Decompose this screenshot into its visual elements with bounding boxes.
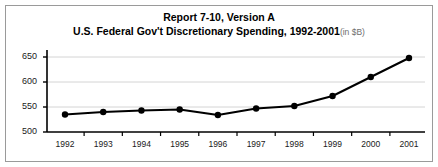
data-point-marker bbox=[329, 93, 335, 99]
data-point-marker bbox=[406, 55, 412, 61]
y-tick-label: 650 bbox=[7, 52, 37, 61]
data-point-marker bbox=[138, 107, 144, 113]
plot-area: 5005506006501992199319941995199619971998… bbox=[0, 0, 438, 167]
x-tick-label: 1994 bbox=[121, 140, 161, 149]
x-tick-label: 1995 bbox=[160, 140, 200, 149]
x-tick-label: 1997 bbox=[236, 140, 276, 149]
y-tick-label: 600 bbox=[7, 77, 37, 86]
data-point-marker bbox=[62, 111, 68, 117]
x-tick-label: 1992 bbox=[45, 140, 85, 149]
y-tick-label: 550 bbox=[7, 102, 37, 111]
data-point-marker bbox=[253, 105, 259, 111]
data-point-marker bbox=[215, 112, 221, 118]
data-point-marker bbox=[368, 74, 374, 80]
x-tick-label: 1998 bbox=[274, 140, 314, 149]
x-tick-label: 1993 bbox=[83, 140, 123, 149]
y-tick-label: 500 bbox=[7, 127, 37, 136]
data-point-marker bbox=[291, 103, 297, 109]
x-tick-label: 1996 bbox=[198, 140, 238, 149]
x-tick-label: 1999 bbox=[313, 140, 353, 149]
x-tick-label: 2000 bbox=[351, 140, 391, 149]
chart-card: Report 7-10, Version A U.S. Federal Gov'… bbox=[0, 0, 438, 167]
x-tick-label: 2001 bbox=[389, 140, 429, 149]
data-point-marker bbox=[176, 106, 182, 112]
data-point-marker bbox=[100, 109, 106, 115]
series-line bbox=[65, 58, 409, 115]
